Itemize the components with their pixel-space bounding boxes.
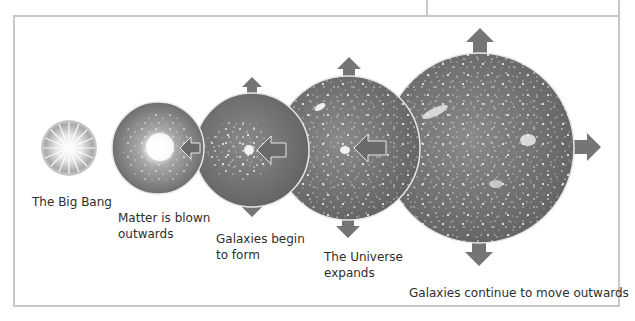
- label-galaxies-begin: Galaxies begin to form: [216, 231, 305, 263]
- label-line: outwards: [118, 226, 210, 242]
- label-matter-blown: Matter is blown outwards: [118, 210, 210, 242]
- label-big-bang: The Big Bang: [32, 194, 112, 210]
- label-line: The Big Bang: [32, 194, 112, 210]
- label-line: Galaxies continue to move outwards: [409, 285, 629, 301]
- label-galaxies-continue: Galaxies continue to move outwards: [409, 285, 629, 301]
- label-line: expands: [324, 265, 403, 281]
- matter-blown-sphere: [112, 102, 204, 194]
- label-line: Galaxies begin: [216, 231, 305, 247]
- label-line: The Universe: [324, 249, 403, 265]
- expanding-universe-diagram: [0, 0, 635, 321]
- label-line: to form: [216, 247, 305, 263]
- big-bang-sphere: [41, 120, 97, 176]
- label-line: Matter is blown: [118, 210, 210, 226]
- label-universe-expands: The Universe expands: [324, 249, 403, 281]
- galaxies-begin-sphere: [195, 77, 309, 217]
